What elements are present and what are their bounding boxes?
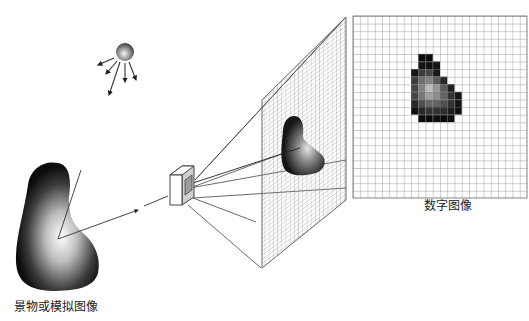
scene-label: 景物或模拟图像 <box>14 297 98 314</box>
scene-object <box>16 162 99 291</box>
digitization-diagram <box>0 0 529 321</box>
digital-image-grid <box>353 16 527 198</box>
light-source <box>98 43 136 95</box>
sampling-grid-plane <box>193 17 346 268</box>
camera <box>170 166 194 205</box>
light-ray-arrows-icon <box>98 58 136 95</box>
digital-image-label: 数字图像 <box>424 196 472 213</box>
light-sphere-icon <box>116 43 134 61</box>
